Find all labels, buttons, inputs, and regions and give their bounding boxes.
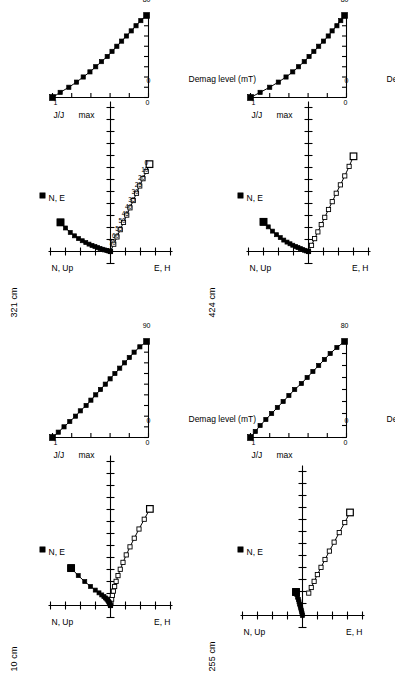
- demag-data-point: [275, 405, 279, 409]
- data-point-n-e: [322, 557, 326, 561]
- data-point-n-e: [312, 579, 316, 583]
- legend-label-n-e: N, E: [246, 192, 263, 202]
- data-point-n-up: [93, 588, 97, 592]
- demag-data-point: [328, 351, 332, 355]
- data-point-n-e: [115, 573, 119, 577]
- demag-data-point: [341, 12, 347, 18]
- demag-data-point: [334, 23, 338, 27]
- data-point-n-e: [312, 236, 316, 240]
- step-label: 30: [131, 188, 139, 195]
- demag-data: [247, 12, 347, 100]
- demag-plot-255cm: J/Jmax10Demag level (mT)080: [220, 327, 380, 477]
- zijderveld-plot-10cm: N, UpE, HN, E: [22, 487, 182, 667]
- demag-curve: [250, 15, 344, 97]
- demag-svg-321cm: J/Jmax10Demag level (mT)080: [22, 7, 182, 137]
- demag-data-point: [330, 28, 334, 32]
- demag-data-point: [143, 338, 149, 344]
- demag-data-point: [311, 49, 315, 53]
- step-label: 10: [141, 166, 149, 173]
- demag-data-point: [124, 33, 128, 37]
- data-point-terminal-n-up: [57, 218, 64, 225]
- data-point-n-e: [112, 584, 116, 588]
- specimen-depth-label-321cm: 321 cm: [8, 287, 18, 317]
- demag-data-point: [310, 369, 314, 373]
- x-axis-label: Demag level (mT): [386, 413, 395, 423]
- step-label: 60: [112, 231, 120, 238]
- demag-plot-10cm: J/Jmax10Demag level (mT)090: [22, 327, 182, 477]
- demag-data: [49, 338, 149, 440]
- legend-marker-n-e: [39, 546, 44, 551]
- zijderveld-plot-424cm: N, UpE, HN, E: [220, 133, 380, 313]
- y-axis-bottom-tick-label: 0: [343, 98, 347, 105]
- x-axis-min-tick-label: 0: [146, 76, 150, 83]
- x-axis-min-tick-label: 0: [146, 416, 150, 423]
- legend-label-n-e: N, E: [48, 546, 65, 556]
- zijderveld-svg-255cm: N, UpE, HN, E: [220, 487, 380, 667]
- demag-data-point: [84, 403, 88, 407]
- x-axis-min-tick-label: 0: [344, 76, 348, 83]
- demag-data-point: [326, 33, 330, 37]
- data-point-n-e: [120, 560, 124, 564]
- y-axis-label-sub: max: [78, 449, 95, 459]
- axis-label-n-up: N, Up: [51, 616, 73, 626]
- demag-data-point: [87, 69, 91, 73]
- data-point-n-up: [88, 584, 92, 588]
- demag-data-point: [299, 381, 303, 385]
- demag-data-point: [61, 424, 65, 428]
- specimen-depth-label-424cm: 424 cm: [206, 287, 216, 317]
- data-point-n-e: [342, 173, 346, 177]
- step-label: 80: [105, 246, 113, 253]
- demag-plot-424cm: J/Jmax10Demag level (mT)080: [220, 7, 380, 137]
- demag-data-point: [322, 357, 326, 361]
- demag-data-point: [132, 350, 136, 354]
- data-point-n-e: [315, 229, 319, 233]
- axis-label-n-up: N, Up: [243, 626, 265, 636]
- data-point-n-up: [68, 230, 72, 234]
- y-axis-bottom-tick-label: 0: [145, 98, 149, 105]
- demag-data-point: [73, 414, 77, 418]
- data-point-n-e: [309, 243, 313, 247]
- demag-data-point: [258, 423, 262, 427]
- y-axis-top-tick-label: 1: [53, 98, 57, 105]
- x-axis-min-tick-label: 0: [344, 416, 348, 423]
- demag-data-point: [114, 44, 118, 48]
- demag-data-point: [292, 387, 296, 391]
- legend-marker-n-e: [39, 192, 44, 197]
- step-label: 40: [125, 202, 133, 209]
- data-point-n-e: [342, 520, 346, 524]
- demag-curve: [52, 15, 146, 97]
- data-point-n-up: [82, 579, 86, 583]
- demag-data-point: [88, 398, 92, 402]
- data-point-n-e: [114, 579, 118, 583]
- demag-data-point: [133, 23, 137, 27]
- demag-data-point: [74, 80, 78, 84]
- demag-data-point: [67, 419, 71, 423]
- step-label: 45: [121, 210, 129, 217]
- demag-data-point: [112, 371, 116, 375]
- data-point-n-e: [332, 540, 336, 544]
- data-point-n-e: [309, 585, 313, 589]
- data-point-n-e: [337, 530, 341, 534]
- demag-data-point: [302, 59, 306, 63]
- axis-label-e-h: E, H: [153, 262, 170, 272]
- demag-data-point: [93, 392, 97, 396]
- zijderveld-axes: [48, 455, 172, 617]
- demag-data-point: [305, 375, 309, 379]
- demag-data-point: [334, 345, 338, 349]
- demag-labels: J/Jmax10Demag level (mT)080: [251, 0, 395, 119]
- data-point-terminal-n-up: [292, 588, 299, 595]
- data-point-n-e: [322, 215, 326, 219]
- demag-svg-424cm: J/Jmax10Demag level (mT)080: [220, 7, 380, 137]
- demag-data-point: [109, 49, 113, 53]
- data-point-n-e: [334, 191, 338, 195]
- y-axis-bottom-tick-label: 0: [343, 438, 347, 445]
- data-point-n-e: [347, 164, 351, 168]
- legend-marker-n-e: [237, 192, 242, 197]
- y-axis-label: J/J: [53, 109, 64, 119]
- y-axis-label-sub: max: [276, 109, 293, 119]
- demag-data-point: [306, 54, 310, 58]
- data-point-n-up: [270, 229, 274, 233]
- demag-labels: J/Jmax10Demag level (mT)080: [251, 321, 395, 459]
- axis-label-e-h: E, H: [345, 626, 362, 636]
- demag-data-point: [122, 360, 126, 364]
